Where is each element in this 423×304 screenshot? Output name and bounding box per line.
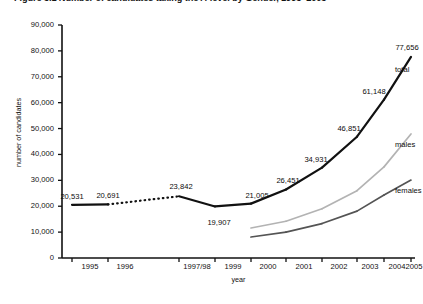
data-value-label: 21,005 bbox=[245, 191, 268, 200]
y-axis-tick-label: 20,000 bbox=[8, 202, 54, 210]
data-value-label: 34,931 bbox=[304, 155, 327, 164]
x-axis-tick-label: 2002 bbox=[331, 262, 348, 271]
x-axis-tick-label: 1997/98 bbox=[183, 262, 210, 271]
data-value-label: 19,907 bbox=[207, 218, 230, 227]
series-label-females: females bbox=[395, 186, 422, 195]
data-value-label: 61,148 bbox=[362, 87, 385, 96]
x-axis-tick-label: 1996 bbox=[117, 262, 134, 271]
data-value-label: 46,851 bbox=[337, 124, 360, 133]
figure-container: Figure 3.1 Number of candidates taking t… bbox=[0, 0, 423, 304]
x-axis-tick-label: 1999 bbox=[225, 262, 242, 271]
x-axis-tick-labels: 199519961997/981999200020012002200320042… bbox=[62, 262, 415, 276]
plot-area: 20,53120,69123,84219,90721,00526,45134,9… bbox=[62, 25, 415, 258]
x-axis-tick-label: 1995 bbox=[82, 262, 99, 271]
data-value-label: 20,531 bbox=[60, 192, 83, 201]
data-value-label: 26,451 bbox=[276, 176, 299, 185]
y-axis-tick-label: 0 bbox=[8, 254, 54, 262]
x-axis-tick-label: 2003 bbox=[362, 262, 379, 271]
y-axis-tick-label: 80,000 bbox=[8, 47, 54, 55]
figure-title: Figure 3.1 Number of candidates taking t… bbox=[14, 0, 414, 4]
chart-svg bbox=[62, 25, 415, 258]
data-value-label: 20,691 bbox=[96, 191, 119, 200]
series-label-total: total bbox=[395, 65, 409, 74]
series-label-males: males bbox=[395, 140, 415, 149]
x-axis-tick-label: 2005 bbox=[406, 262, 423, 271]
x-axis-tick-label: 2001 bbox=[296, 262, 313, 271]
data-value-label: 77,656 bbox=[395, 43, 418, 52]
x-axis-tick-label: 2000 bbox=[260, 262, 277, 271]
y-axis-title: number of candidates bbox=[14, 73, 23, 193]
x-axis-title: year bbox=[62, 275, 415, 284]
y-axis-tick-label: 90,000 bbox=[8, 21, 54, 29]
x-axis-tick-label: 2004 bbox=[389, 262, 406, 271]
y-axis-tick-label: 10,000 bbox=[8, 228, 54, 236]
data-value-label: 23,842 bbox=[169, 182, 192, 191]
